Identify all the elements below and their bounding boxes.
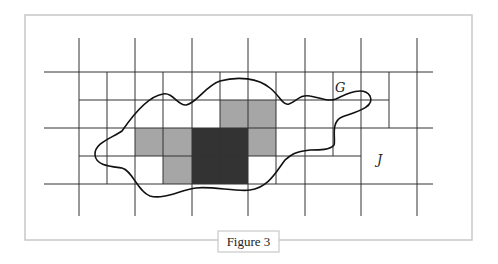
label-j: J <box>374 152 383 167</box>
light-cell <box>163 156 192 184</box>
shaded-cells <box>135 100 276 184</box>
label-g: G <box>335 80 345 95</box>
light-cell <box>248 128 276 156</box>
figure-3-diagram: G J Figure 3 <box>0 0 498 264</box>
figure-caption: Figure 3 <box>227 234 271 249</box>
